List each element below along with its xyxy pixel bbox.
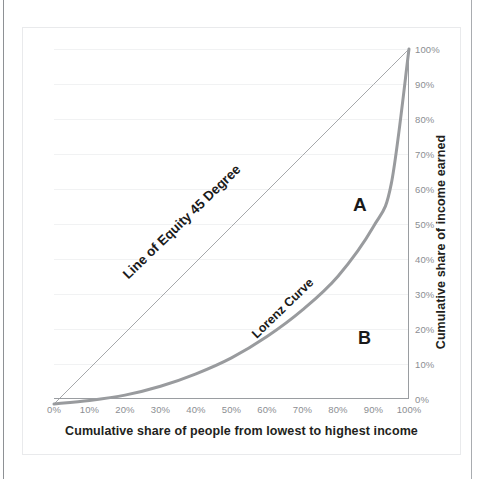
x-tick-50: 50%: [222, 404, 241, 415]
y-axis-spine: [408, 49, 409, 399]
x-tick-0: 0%: [47, 404, 61, 415]
y-axis-title: Cumulative share of income earned: [434, 135, 448, 349]
series-layer: [54, 49, 409, 404]
x-tick-40: 40%: [186, 404, 205, 415]
region-a-label: A: [353, 194, 367, 216]
lorenz-chart-card: 100% 90% 80% 70% 60% 50% 40% 30% 20% 10%…: [22, 27, 461, 455]
x-tick-80: 80%: [328, 404, 347, 415]
x-tick-10: 10%: [80, 404, 99, 415]
x-tick-20: 20%: [115, 404, 134, 415]
x-axis-title: Cumulative share of people from lowest t…: [23, 424, 460, 438]
plot-wrapper: 100% 90% 80% 70% 60% 50% 40% 30% 20% 10%…: [39, 41, 429, 408]
x-tick-70: 70%: [293, 404, 312, 415]
page-right-rule: [471, 0, 472, 479]
x-tick-90: 90%: [364, 404, 383, 415]
y-axis-title-wrap: Cumulative share of income earned: [431, 28, 451, 456]
x-tick-60: 60%: [257, 404, 276, 415]
x-tick-100: 100%: [397, 404, 422, 415]
equity-line-path: [54, 49, 409, 404]
x-tick-30: 30%: [151, 404, 170, 415]
y-tick-0: 0%: [415, 394, 429, 405]
region-b-label: B: [358, 328, 371, 349]
plot-area: 100% 90% 80% 70% 60% 50% 40% 30% 20% 10%…: [54, 49, 409, 399]
page-left-rule: [3, 0, 4, 479]
x-axis-spine: [54, 398, 409, 399]
